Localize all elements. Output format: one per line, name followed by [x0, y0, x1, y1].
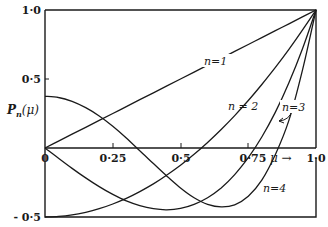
label-n4: n=4	[263, 182, 286, 195]
label-n2: n = 2	[228, 100, 258, 113]
x-label-0.25: 0·25	[100, 152, 127, 165]
y-axis-title-arg: (μ)	[22, 103, 39, 117]
x-label-0: 0	[41, 152, 49, 165]
y-label-1.0: 1·0	[22, 4, 41, 17]
curve-n1	[45, 10, 316, 148]
x-label-0.75: 0·75	[240, 152, 267, 165]
x-label-1.0: 1·0	[306, 152, 325, 165]
x-axis-title: μ →	[270, 151, 292, 165]
label-n3: n=3	[282, 101, 305, 114]
curve-n3	[45, 10, 316, 210]
y-label-0.5: 0·5	[22, 73, 41, 86]
y-axis-title: Pn(μ)	[6, 103, 39, 119]
x-label-0.5: 0·5	[171, 152, 190, 165]
legendre-polynomials-chart: 1·0 0·5 - 0·5 Pn(μ) 0 0·25 0·5 0·75 μ → …	[0, 0, 328, 227]
y-label-neg-0.5: - 0·5	[13, 211, 41, 224]
label-n1: n=1	[204, 55, 227, 68]
